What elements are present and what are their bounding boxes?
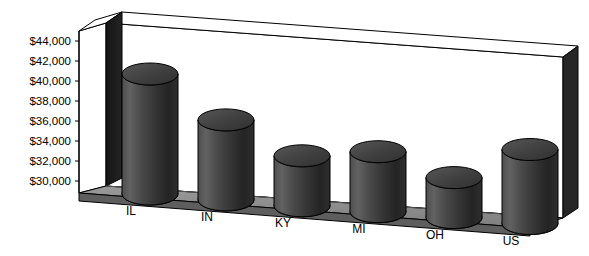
bar-body [198, 120, 254, 211]
y-tick-label: $36,000 [29, 115, 71, 127]
left-inner-panel [106, 12, 122, 186]
bar-top-ellipse [350, 141, 406, 163]
bar-ky[interactable] [274, 145, 330, 217]
y-tick-label: $40,000 [29, 75, 71, 87]
bar-us[interactable] [502, 139, 558, 235]
y-tick-label: $32,000 [29, 155, 71, 167]
bar-oh[interactable] [426, 167, 482, 229]
bar-in[interactable] [198, 109, 254, 211]
bar-top-ellipse [274, 145, 330, 167]
bar-top-ellipse [502, 139, 558, 161]
y-axis: $44,000 $42,000 $40,000 $38,000 $36,000 … [29, 31, 79, 193]
x-tick-label-us: US [503, 234, 520, 248]
bar-il[interactable] [122, 63, 178, 205]
left-wall-outer [79, 23, 106, 193]
bar-body [502, 150, 558, 235]
right-wall-edge [563, 46, 578, 218]
x-tick-label-in: IN [201, 210, 213, 224]
x-tick-label-oh: OH [426, 228, 444, 242]
y-tick-label: $38,000 [29, 95, 71, 107]
x-tick-label-il: IL [126, 204, 136, 218]
x-tick-label-mi: MI [352, 222, 365, 236]
y-tick-label: $44,000 [29, 35, 71, 47]
bar-chart-3d: $44,000 $42,000 $40,000 $38,000 $36,000 … [0, 0, 589, 256]
bar-top-ellipse [122, 63, 178, 85]
chart-container: $44,000 $42,000 $40,000 $38,000 $36,000 … [0, 0, 589, 256]
bar-top-ellipse [426, 167, 482, 189]
y-tick-label: $34,000 [29, 135, 71, 147]
bar-mi[interactable] [350, 141, 406, 223]
y-tick-label: $30,000 [29, 175, 71, 187]
bar-top-ellipse [198, 109, 254, 131]
bar-body [122, 74, 178, 205]
y-tick-label: $42,000 [29, 55, 71, 67]
x-tick-label-ky: KY [275, 216, 291, 230]
